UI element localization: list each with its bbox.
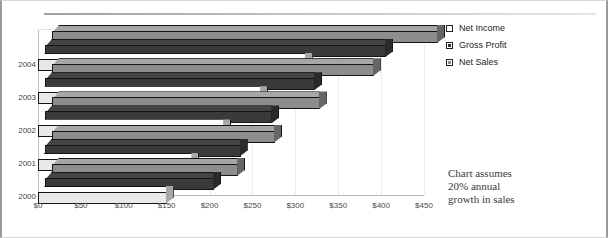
chart-container: $0$50$100$150$200$250$300$350$400$450 20… [0,0,608,238]
bar-end-face [240,139,248,157]
annotation-line-1: Chart assumes [448,167,598,180]
x-tick-label: $0 [18,201,58,210]
annotation-line-2: 20% annual [448,180,598,193]
x-tick-label: $200 [190,201,230,210]
y-tick-label: 2000 [4,192,36,201]
bar-end-face [213,172,221,190]
plot-area: $0$50$100$150$200$250$300$350$400$450 20… [2,19,442,209]
legend-item[interactable]: Net Income [446,21,507,35]
y-tick-label: 2004 [4,60,36,69]
bar-end-face [437,25,445,43]
bar-end-face [373,58,381,76]
legend-swatch-icon [446,25,453,32]
x-tick-label: $50 [61,201,101,210]
x-tick-label: $250 [232,201,272,210]
chart-annotation: Chart assumes 20% annual growth in sales [448,167,598,206]
legend-swatch-icon [446,42,453,49]
y-tick-label: 2003 [4,93,36,102]
annotation-line-3: growth in sales [448,193,598,206]
x-tick-label: $350 [318,201,358,210]
y-tick-label: 2002 [4,126,36,135]
gridline [424,29,425,195]
x-tick-label: $150 [147,201,187,210]
bar-end-face [271,105,279,123]
x-tick-label: $450 [404,201,444,210]
x-tick-label: $400 [361,201,401,210]
legend-swatch-icon [446,59,453,66]
legend-label: Net Sales [459,57,498,67]
chart-legend: Net IncomeGross ProfitNet Sales [446,21,507,72]
legend-item[interactable]: Gross Profit [446,38,507,52]
bar-end-face [385,39,393,57]
legend-label: Net Income [459,23,505,33]
header-rule [44,13,596,15]
x-tick-label: $300 [275,201,315,210]
bar-end-face [314,72,322,90]
x-tick-label: $100 [104,201,144,210]
bar-end-face [274,125,282,143]
legend-item[interactable]: Net Sales [446,55,507,69]
legend-label: Gross Profit [459,40,507,50]
y-tick-label: 2001 [4,159,36,168]
bar-end-face [319,91,327,109]
bar-end-face [237,158,245,176]
